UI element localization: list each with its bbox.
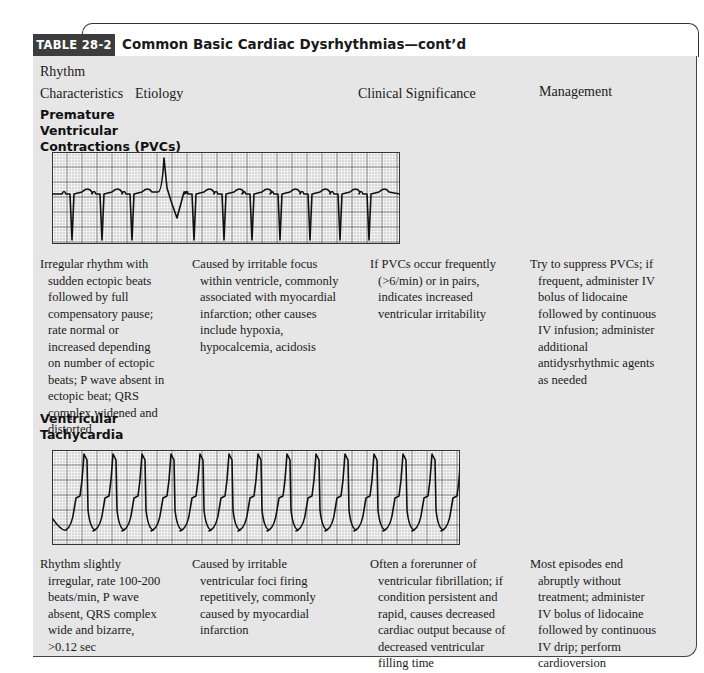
- row-title-pvc: Premature Ventricular Contractions (PVCs…: [40, 107, 181, 155]
- pvc-etiology: Caused by irritable focus within ventric…: [192, 256, 342, 355]
- pvc-clinical-text: If PVCs occur frequently (>6/min) or in …: [370, 256, 510, 322]
- vtach-characteristics-text: Rhythm slightly irregular, rate 100-200 …: [40, 556, 165, 655]
- row-title-line: Premature: [40, 107, 181, 123]
- vtach-etiology: Caused by irritable ventricular foci fir…: [192, 556, 340, 639]
- vtach-etiology-text: Caused by irritable ventricular foci fir…: [192, 556, 340, 639]
- pvc-etiology-text: Caused by irritable focus within ventric…: [192, 256, 342, 355]
- column-header-rhythm-line2: Characteristics: [40, 85, 123, 103]
- pvc-management-text: Try to suppress PVCs; if frequent, admin…: [530, 256, 660, 388]
- column-header-etiology: Etiology: [135, 85, 183, 103]
- vtach-clinical-text: Often a forerunner of ventricular fibril…: [370, 556, 510, 672]
- pvc-management: Try to suppress PVCs; if frequent, admin…: [530, 256, 660, 388]
- vtach-clinical-significance: Often a forerunner of ventricular fibril…: [370, 556, 510, 672]
- column-header-rhythm-line1: Rhythm: [40, 63, 123, 81]
- vtach-characteristics: Rhythm slightly irregular, rate 100-200 …: [40, 556, 165, 655]
- table-number-label: TABLE 28-2: [33, 34, 115, 56]
- table-title: Common Basic Cardiac Dysrhythmias—cont’d: [122, 33, 466, 55]
- pvc-ecg-strip-icon: [52, 152, 400, 244]
- row-title-line: Tachycardia: [40, 427, 123, 443]
- pvc-clinical-significance: If PVCs occur frequently (>6/min) or in …: [370, 256, 510, 322]
- vtach-ecg-strip-icon: [52, 450, 460, 545]
- column-header-rhythm: Rhythm Characteristics: [40, 63, 123, 103]
- row-title-vtach: Ventricular Tachycardia: [40, 411, 123, 443]
- row-title-line: Ventricular: [40, 123, 181, 139]
- column-header-management: Management: [539, 83, 612, 101]
- column-header-clinical-significance: Clinical Significance: [358, 85, 476, 103]
- row-title-line: Ventricular: [40, 411, 123, 427]
- vtach-management: Most episodes end abruptly without treat…: [530, 556, 660, 672]
- vtach-management-text: Most episodes end abruptly without treat…: [530, 556, 660, 672]
